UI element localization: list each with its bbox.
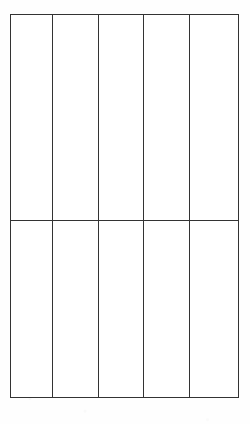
blank-table-grid — [10, 14, 239, 398]
table-cell-text — [144, 15, 189, 19]
table-cell-r1-c0[interactable] — [11, 221, 53, 398]
table-cell-r1-c2[interactable] — [99, 221, 144, 398]
table-cell-text — [53, 15, 98, 19]
table-cell-text — [11, 221, 52, 225]
table-cell-r0-c2[interactable] — [99, 15, 144, 221]
table-cell-r0-c0[interactable] — [11, 15, 53, 221]
table-cell-r1-c1[interactable] — [53, 221, 99, 398]
table-cell-text — [190, 15, 238, 19]
table-cell-r1-c4[interactable] — [190, 221, 239, 398]
table-cell-r0-c1[interactable] — [53, 15, 99, 221]
table-cell-text — [99, 15, 143, 19]
table-cell-text — [11, 15, 52, 19]
table-row — [11, 15, 239, 221]
table-cell-text — [190, 221, 238, 225]
table-cell-r1-c3[interactable] — [144, 221, 190, 398]
table-cell-text — [53, 221, 98, 225]
table-cell-r0-c4[interactable] — [190, 15, 239, 221]
table-cell-text — [99, 221, 143, 225]
table-cell-text — [144, 221, 189, 225]
table-cell-r0-c3[interactable] — [144, 15, 190, 221]
table-row — [11, 221, 239, 398]
